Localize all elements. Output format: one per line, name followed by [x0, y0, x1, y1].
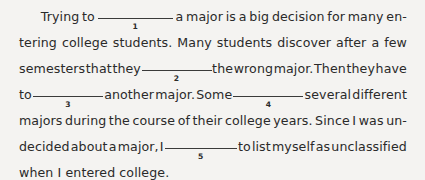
word: unclassified	[331, 134, 407, 160]
answer-blank-2[interactable]: 2	[142, 72, 212, 73]
word: is	[226, 4, 236, 30]
word: Many	[177, 30, 211, 56]
answer-blank-1[interactable]: 1	[98, 20, 173, 21]
word: during	[65, 108, 106, 134]
word: different	[352, 82, 407, 108]
word: of	[178, 108, 190, 134]
answer-blank-4[interactable]: 4	[233, 98, 303, 99]
word: was	[359, 108, 384, 134]
blank-rule	[98, 18, 173, 19]
text-line: teringcollegestudents.Manystudentsdiscov…	[19, 30, 407, 56]
word: college	[225, 108, 271, 134]
word: I	[58, 160, 62, 177]
word: to	[82, 4, 95, 30]
word: Some	[196, 82, 232, 108]
blank-rule	[142, 70, 212, 71]
word: decided	[19, 134, 70, 160]
word: students	[217, 30, 273, 56]
word: a	[109, 134, 117, 160]
word: list	[252, 134, 271, 160]
word: major.	[274, 56, 314, 82]
word: college.	[119, 160, 169, 177]
word: big	[249, 4, 269, 30]
text-line: when I entered college.	[19, 160, 407, 177]
word: entered	[65, 160, 115, 177]
word: about	[71, 134, 108, 160]
word: students.	[113, 30, 173, 56]
word: for	[327, 4, 345, 30]
word: have	[376, 56, 407, 82]
word: major	[186, 4, 223, 30]
word: Since	[315, 108, 350, 134]
word: another	[104, 82, 154, 108]
blank-rule	[165, 148, 237, 149]
word: a	[239, 4, 247, 30]
answer-blank-3[interactable]: 3	[33, 98, 103, 99]
word: Trying	[41, 4, 80, 30]
word: Then	[314, 56, 346, 82]
word: wrong	[234, 56, 273, 82]
word: to	[238, 134, 251, 160]
blank-rule	[33, 96, 103, 97]
word: un-	[386, 108, 407, 134]
word: I	[352, 108, 356, 134]
text-line: majorsduringthecourseoftheircollegeyears…	[19, 108, 407, 134]
word: decision	[272, 4, 325, 30]
word: I	[160, 134, 164, 160]
word: the	[212, 56, 233, 82]
word: they	[346, 56, 375, 82]
text-line: Tryingto1amajorisabigdecisionformanyen-	[19, 4, 407, 30]
word: major,	[118, 134, 159, 160]
text-line: to3anothermajor.Some4severaldifferent	[19, 82, 407, 108]
word: semesters	[19, 56, 85, 82]
word: myself	[272, 134, 315, 160]
word: few	[384, 30, 407, 56]
passage-text: Tryingto1amajorisabigdecisionformanyen-t…	[19, 4, 407, 177]
text-line: decidedaboutamajor,I5tolistmyselfasuncla…	[19, 134, 407, 160]
word: college	[62, 30, 108, 56]
word: when	[19, 160, 53, 177]
text-line: semestersthatthey2thewrongmajor.Thenthey…	[19, 56, 407, 82]
blank-rule	[233, 96, 303, 97]
word: as	[316, 134, 330, 160]
word: a	[175, 4, 183, 30]
answer-blank-5[interactable]: 5	[165, 150, 237, 151]
word: their	[193, 108, 223, 134]
word: after	[336, 30, 366, 56]
word: en-	[386, 4, 407, 30]
word: the	[109, 108, 130, 134]
word: majors	[19, 108, 63, 134]
word: course	[132, 108, 175, 134]
word: several	[305, 82, 352, 108]
word: discover	[277, 30, 331, 56]
word: they	[112, 56, 141, 82]
word: tering	[19, 30, 57, 56]
word: that	[86, 56, 112, 82]
word: many	[348, 4, 384, 30]
word: major.	[155, 82, 195, 108]
word: a	[371, 30, 379, 56]
word: to	[19, 82, 32, 108]
word: years.	[273, 108, 312, 134]
